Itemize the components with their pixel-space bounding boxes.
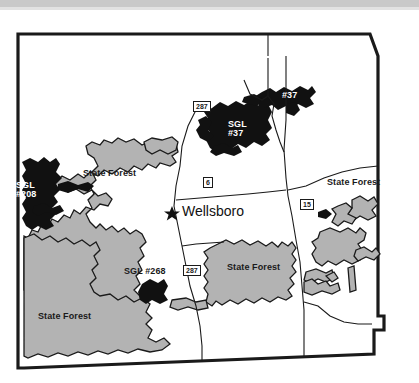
state-forest-label-central-south: State Forest (227, 263, 280, 272)
sgl-208-label-line2: #208 (16, 189, 36, 199)
route-shield-287-south: 287 (183, 265, 201, 276)
state-forest-label-northwest: State Forest (83, 169, 136, 178)
state-forest-polygon-central-south (204, 240, 296, 306)
sgl-37-label-line2: #37 (228, 128, 243, 138)
sgl-208-label: SGL #208 (16, 181, 36, 200)
sgl-37-label: SGL #37 (228, 120, 247, 139)
route-shield-15: 15 (300, 199, 314, 210)
state-forest-label-east: State Forest (327, 178, 380, 187)
route-shield-287-north: 287 (193, 101, 211, 112)
city-label-wellsboro: Wellsboro (182, 203, 244, 219)
route-shield-6: 6 (203, 177, 213, 188)
state-forest-polygon-east-bar (348, 266, 356, 292)
sgl-268-label: SGL #268 (124, 267, 166, 276)
state-forest-label-southwest: State Forest (38, 312, 91, 321)
map-canvas (0, 0, 419, 383)
map-figure: SGL #208 SGL #37 #37 SGL #268 State Fore… (0, 0, 419, 383)
sgl-37-north-label: #37 (282, 91, 297, 100)
